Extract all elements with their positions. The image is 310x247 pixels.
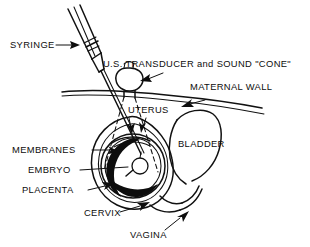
label-transducer: U.S. TRANSDUCER and SOUND "CONE": [103, 58, 291, 69]
label-embryo: EMBRYO: [28, 164, 71, 175]
ultrasound-guided-needle-diagram: SYRINGE U.S. TRANSDUCER and SOUND "CONE"…: [0, 0, 310, 247]
label-bladder: BLADDER: [178, 138, 225, 149]
label-cervix: CERVIX: [84, 207, 121, 218]
label-maternal-wall: MATERNAL WALL: [190, 81, 272, 92]
label-uterus: UTERUS: [128, 104, 169, 115]
leader-lines: [56, 41, 205, 230]
label-vagina: VAGINA: [130, 229, 167, 240]
diagram-canvas: SYRINGE U.S. TRANSDUCER and SOUND "CONE"…: [0, 0, 310, 247]
embryo-shape: [126, 152, 148, 176]
label-placenta: PLACENTA: [22, 184, 74, 195]
label-membranes: MEMBRANES: [12, 144, 76, 155]
label-syringe: SYRINGE: [10, 39, 55, 50]
